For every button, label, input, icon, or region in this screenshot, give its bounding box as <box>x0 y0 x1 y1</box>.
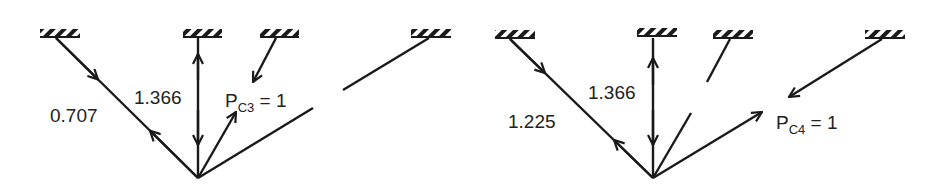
member-2-force-label: 1.366 <box>134 87 182 108</box>
diagram-left: 0.707 1.366 PC3 = 1 <box>40 29 451 178</box>
fixed-support-icon <box>637 28 677 36</box>
fixed-support-icon <box>40 29 80 37</box>
fixed-support-icon <box>865 30 905 38</box>
truss-diagrams: 0.707 1.366 PC3 = 1 <box>0 0 931 192</box>
fixed-support-icon <box>183 29 222 37</box>
fixed-support-icon <box>713 30 753 38</box>
diagram-right: 1.225 1.366 PC4 = 1 <box>495 28 905 178</box>
member-1-force-label: 1.225 <box>508 111 556 132</box>
member-4-force-arrow <box>653 39 882 178</box>
fixed-support-icon <box>495 30 535 38</box>
unit-load-label: PC4 = 1 <box>776 112 838 137</box>
member-1-force-label: 0.707 <box>50 105 98 126</box>
member-3 <box>653 39 730 178</box>
unit-load-label: PC3 = 1 <box>225 90 287 115</box>
member-1 <box>510 39 653 178</box>
member-2-force-label: 1.366 <box>588 82 636 103</box>
fixed-support-icon <box>260 29 299 37</box>
fixed-support-icon <box>411 29 451 37</box>
